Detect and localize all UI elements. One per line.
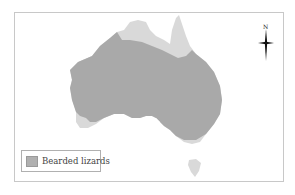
- legend-swatch-bearded-lizards: [26, 156, 38, 167]
- tasmania: [188, 159, 201, 177]
- north-arrow-icon: [258, 25, 274, 65]
- legend-label-bearded-lizards: Bearded lizards: [42, 156, 110, 166]
- map-legend: Bearded lizards: [21, 150, 101, 172]
